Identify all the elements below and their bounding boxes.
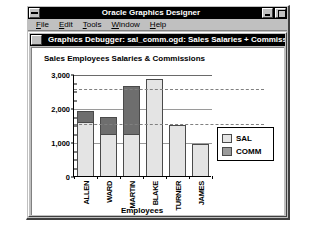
application-window: Oracle Graphics Designer File Edit Tools… [26,5,290,220]
bar-segment-sal[interactable] [169,125,186,176]
y-axis-tick-mark [71,75,74,76]
system-menu-icon[interactable] [29,8,40,18]
x-axis-tick-mark [189,176,190,179]
legend-label-comm: COMM [236,147,261,156]
y-axis-tick-label: 3,000 [51,71,70,80]
x-axis-tick-mark [143,176,144,179]
y-axis-tick-mark [71,143,74,144]
graphics-debugger-window: Graphics Debugger: sal_comm.ogd: Sales S… [28,32,287,217]
bar-segment-sal[interactable] [123,134,140,177]
window-title: Oracle Graphics Designer [41,7,261,19]
x-axis-label-james: JAMES [196,181,205,205]
menu-bar: File Edit Tools Window Help [28,19,287,31]
debugger-title-bar: Graphics Debugger: sal_comm.ogd: Sales S… [30,34,285,46]
legend-label-sal: SAL [236,134,252,143]
bar-segment-sal[interactable] [146,79,163,176]
bar-segment-comm[interactable] [123,86,140,134]
minimize-icon[interactable] [262,8,273,18]
menu-item-tools[interactable]: Tools [78,19,107,30]
x-axis-label-allen: ALLEN [81,181,90,205]
x-axis-tick-mark [120,176,121,179]
menu-item-edit[interactable]: Edit [54,19,78,30]
legend-item-comm[interactable]: COMM [222,145,273,158]
legend-swatch-comm-icon [222,147,232,156]
x-axis-tick-mark [166,176,167,179]
legend-item-sal[interactable]: SAL [222,132,273,145]
reference-line [74,89,264,90]
bar-segment-sal[interactable] [100,134,117,177]
plot-area: 01,0002,0003,000ALLENWARDMARTINBLAKETURN… [73,75,211,177]
y-axis-tick-label: 2,000 [51,105,70,114]
chart-canvas: Sales Employees Salaries & Commissions 0… [31,47,284,215]
maximize-icon[interactable] [275,8,286,18]
bar-segment-comm[interactable] [77,111,94,121]
x-axis-title: Employees [73,206,211,215]
debugger-title: Graphics Debugger: sal_comm.ogd: Sales S… [48,34,285,46]
bar-segment-sal[interactable] [77,122,94,176]
chart-title: Sales Employees Salaries & Commissions [32,54,217,63]
y-axis-tick-mark [71,109,74,110]
x-axis-label-martin: MARTIN [127,181,136,208]
chart-legend: SAL COMM [217,127,274,161]
title-bar: Oracle Graphics Designer [28,7,287,19]
x-axis-label-blake: BLAKE [150,181,159,205]
menu-item-help[interactable]: Help [145,19,171,30]
y-axis-tick-label: 0 [66,173,70,182]
x-axis-tick-mark [212,176,213,179]
x-axis-tick-mark [97,176,98,179]
system-menu-icon[interactable] [31,35,42,45]
legend-swatch-sal-icon [222,134,232,143]
menu-item-file[interactable]: File [31,19,54,30]
menu-item-window[interactable]: Window [106,19,144,30]
x-axis-label-ward: WARD [104,181,113,203]
x-axis-tick-mark [74,176,75,179]
reference-line [74,124,264,125]
y-axis-tick-label: 1,000 [51,139,70,148]
bar-segment-sal[interactable] [192,144,209,176]
